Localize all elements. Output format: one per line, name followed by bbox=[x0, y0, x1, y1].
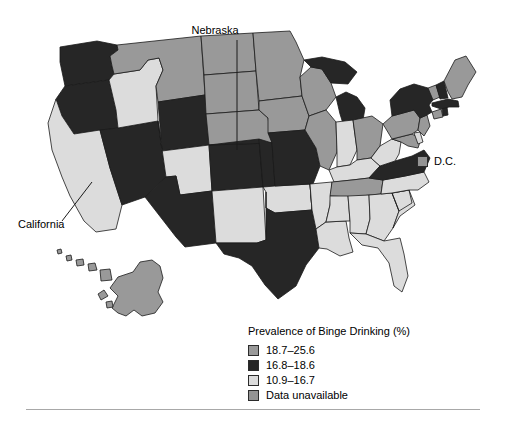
legend-swatch-unavailable bbox=[248, 390, 259, 401]
legend-label-low: 10.9–16.7 bbox=[266, 374, 315, 387]
legend-label-unavailable: Data unavailable bbox=[266, 389, 348, 402]
us-map-svg: Nebraska California bbox=[0, 0, 506, 340]
state-CO[interactable] bbox=[209, 139, 263, 191]
legend-item-unavailable[interactable]: Data unavailable bbox=[248, 388, 448, 403]
legend-item-low[interactable]: 10.9–16.7 bbox=[248, 373, 448, 388]
state-MS[interactable] bbox=[326, 196, 350, 222]
map-legend: Prevalence of Binge Drinking (%) 18.7–25… bbox=[248, 324, 448, 403]
state-CT[interactable] bbox=[432, 109, 443, 119]
footer-rule bbox=[26, 409, 480, 410]
state-WY[interactable] bbox=[158, 95, 209, 151]
state-MN[interactable] bbox=[253, 31, 304, 101]
legend-label-mid: 16.8–18.6 bbox=[266, 359, 315, 372]
legend-label-high: 18.7–25.6 bbox=[266, 344, 315, 357]
us-choropleth-map: Nebraska California bbox=[0, 0, 506, 340]
legend-swatch-low bbox=[248, 375, 259, 386]
nebraska-annotation-label: Nebraska bbox=[191, 24, 239, 36]
state-SD[interactable] bbox=[204, 71, 259, 114]
state-OK[interactable] bbox=[263, 184, 312, 213]
state-HI-3 bbox=[76, 259, 84, 266]
dc-swatch bbox=[417, 156, 428, 167]
state-HI-2 bbox=[66, 255, 72, 261]
state-FL[interactable] bbox=[350, 233, 408, 292]
state-HI-1[interactable] bbox=[57, 249, 62, 254]
dc-label: D.C. bbox=[434, 155, 456, 168]
state-AK[interactable] bbox=[110, 260, 163, 316]
state-NM[interactable] bbox=[212, 187, 266, 243]
state-HI-4 bbox=[88, 263, 97, 271]
california-annotation-label: California bbox=[18, 218, 65, 230]
legend-item-mid[interactable]: 16.8–18.6 bbox=[248, 358, 448, 373]
legend-swatch-mid bbox=[248, 360, 259, 371]
state-AK-tail-1 bbox=[98, 290, 108, 300]
state-ME[interactable] bbox=[444, 56, 476, 99]
state-AK-tail-2 bbox=[106, 301, 113, 308]
state-AL[interactable] bbox=[348, 195, 370, 234]
figure-binge-drinking-map: Nebraska California D.C. Prevalence of B… bbox=[0, 0, 506, 421]
legend-title: Prevalence of Binge Drinking (%) bbox=[248, 324, 448, 338]
dc-legend-marker: D.C. bbox=[417, 155, 456, 168]
state-GA[interactable] bbox=[366, 193, 399, 241]
state-ND[interactable] bbox=[201, 33, 256, 75]
state-HI-5 bbox=[100, 269, 112, 281]
state-LA[interactable] bbox=[316, 221, 353, 256]
legend-swatch-high bbox=[248, 345, 259, 356]
state-MA[interactable] bbox=[432, 99, 459, 109]
legend-item-high[interactable]: 18.7–25.6 bbox=[248, 343, 448, 358]
